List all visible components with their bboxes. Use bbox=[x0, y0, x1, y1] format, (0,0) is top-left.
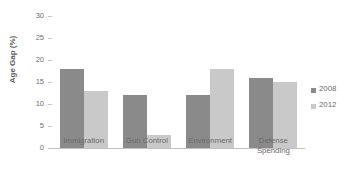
y-axis-tick-label: 0 bbox=[40, 143, 44, 152]
legend-label-2012: 2012 bbox=[319, 100, 336, 109]
category-label: Gun Control bbox=[115, 136, 178, 146]
y-axis-tick-label: 15 bbox=[36, 77, 44, 86]
legend-swatch-2012 bbox=[311, 104, 316, 109]
plot-area bbox=[52, 16, 305, 148]
legend-label-2008: 2008 bbox=[319, 84, 336, 93]
y-axis-tick-label: 30 bbox=[36, 11, 44, 20]
y-axis-tick-label: 10 bbox=[36, 99, 44, 108]
bar-group bbox=[186, 16, 234, 148]
y-axis-tick-mark bbox=[48, 148, 52, 149]
chart-title-strip bbox=[0, 0, 340, 5]
category-label: Immigration bbox=[52, 136, 115, 146]
bar-group bbox=[249, 16, 297, 148]
bar-group bbox=[123, 16, 171, 148]
y-axis-tick-label: 5 bbox=[40, 121, 44, 130]
y-axis-tick-label: 25 bbox=[36, 33, 44, 42]
y-axis-title: Age Gap (%) bbox=[8, 25, 17, 95]
legend-swatch-2008 bbox=[311, 88, 316, 93]
bar-group bbox=[60, 16, 108, 148]
y-axis-tick-label: 20 bbox=[36, 55, 44, 64]
category-label: Environment bbox=[179, 136, 242, 146]
category-label: Defense Spending bbox=[242, 136, 305, 156]
